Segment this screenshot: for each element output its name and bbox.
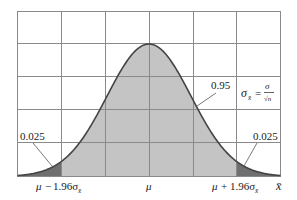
leader-line-left: [33, 143, 52, 166]
tick-lower-op: −: [45, 180, 51, 192]
leader-line-right: [244, 143, 257, 166]
tick-label-upper: μ + 1.96σ x̄: [211, 180, 259, 195]
tick-label-mean: μ: [145, 180, 152, 192]
formula-equals: =: [255, 87, 261, 99]
tail-right-label: 0.025: [253, 130, 278, 142]
tail-left-label: 0.025: [20, 130, 45, 142]
central-label: 0.95: [211, 79, 231, 91]
std-error-formula: σ x̄ = σ √n: [241, 81, 274, 103]
tick-upper-op: +: [221, 180, 227, 192]
tick-lower-coef: 1.96σ: [53, 180, 78, 192]
tick-lower-sub: x̄: [77, 187, 82, 195]
tick-lower-mu: μ: [35, 180, 42, 192]
formula-sigma: σ: [241, 86, 248, 100]
normal-distribution-chart: 0.025 0.95 0.025 σ x̄ = σ √n μ − 1.96σ x…: [0, 0, 297, 200]
leader-line-center: [197, 93, 216, 106]
formula-subscript: x̄: [247, 94, 252, 102]
formula-numerator: σ: [265, 81, 270, 91]
x-axis-label: x̄: [275, 179, 282, 193]
tick-upper-coef: 1.96σ: [230, 180, 255, 192]
tick-upper-mu: μ: [211, 180, 218, 192]
formula-denominator: √n: [264, 95, 272, 103]
tick-label-lower: μ − 1.96σ x̄: [35, 180, 82, 195]
tick-upper-sub: x̄: [254, 187, 259, 195]
